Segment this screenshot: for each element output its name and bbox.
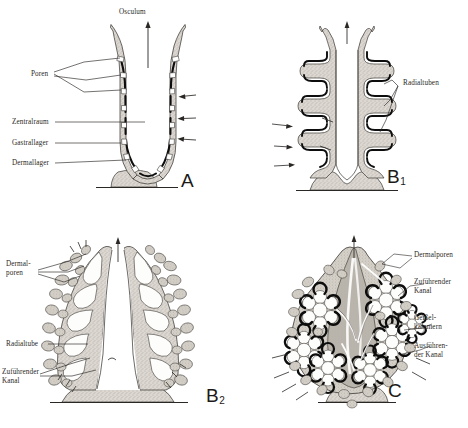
panel-b1-drawing <box>234 0 468 214</box>
substrate-b1 <box>296 172 398 191</box>
osculum-arrow-b1 <box>345 21 350 44</box>
label-radialtuben: Radialtuben <box>403 79 439 87</box>
label-radialtube-b2: Radialtube <box>6 340 38 348</box>
label-zufuehrender-kanal-b2-line1: Zuführender <box>2 368 39 376</box>
label-zentralraum: Zentralraum <box>12 118 49 126</box>
folded-wall-left-b1 <box>298 26 336 178</box>
panel-letter-b2: B2 <box>206 385 224 407</box>
label-ausfuehrender-kanal-line1: Ausführen- <box>414 342 448 350</box>
label-poren: Poren <box>31 70 48 78</box>
folded-wall-right-b1 <box>358 26 396 178</box>
label-geisselkammern-line2: kammern <box>414 323 442 331</box>
osculum-arrow-a <box>145 21 150 68</box>
panel-b2-drawing <box>0 214 234 428</box>
panel-c: Dermalporen Zuführender Kanal Geißel- ka… <box>234 214 468 428</box>
label-dermallager: Dermallager <box>12 159 49 167</box>
intake-arrows-a <box>178 94 197 142</box>
label-dermalporen-c: Dermalporen <box>414 251 453 259</box>
panel-letter-a: A <box>181 170 194 192</box>
label-dermalporen-b2-line2: poren <box>6 269 23 277</box>
label-gastrallager: Gastrallager <box>12 139 48 147</box>
label-dermalporen-b2-line1: Dermal- <box>6 260 31 268</box>
label-zufuehrender-kanal-b2-line2: Kanal <box>2 377 20 385</box>
panel-letter-b1: B1 <box>387 166 405 188</box>
panel-b2: Dermal- poren Radialtube Zuführender Kan… <box>0 214 234 428</box>
label-ausfuehrender-kanal-line2: der Kanal <box>414 351 443 359</box>
label-zufuehrender-kanal-c-line1: Zuführender <box>414 278 451 286</box>
panel-b1: Radialtuben B1 <box>234 0 468 214</box>
panel-letter-c: C <box>388 380 402 402</box>
central-cavity-b1 <box>336 50 358 180</box>
label-zufuehrender-kanal-c-line2: Kanal <box>414 287 432 295</box>
leader-lines-a <box>54 58 145 163</box>
label-osculum: Osculum <box>119 8 146 16</box>
sponge-bodyplan-figure: Osculum Poren Zentralraum Gastrallager D… <box>0 0 468 428</box>
label-geisselkammern-line1: Geißel- <box>414 314 436 322</box>
panel-a: Osculum Poren Zentralraum Gastrallager D… <box>0 0 234 214</box>
panel-a-drawing <box>0 0 234 214</box>
